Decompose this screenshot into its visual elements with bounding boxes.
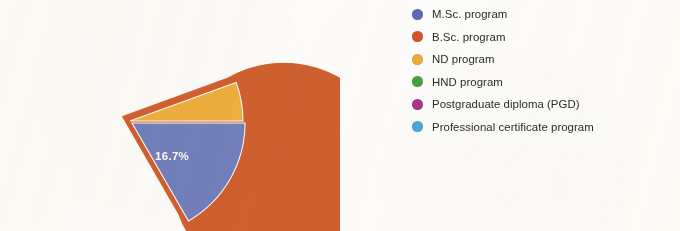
legend-marker-icon (412, 121, 423, 132)
legend-item-postgraduate-diploma[interactable]: Postgraduate diploma (PGD) (409, 93, 677, 116)
legend-marker-icon (412, 9, 423, 20)
legend-item-msc-program[interactable]: M.Sc. program (409, 3, 677, 26)
legend-item-professional-certificate[interactable]: Professional certificate program (409, 116, 677, 139)
pie-chart-figure: 77.8% 16.7% M.Sc. program B.Sc. program … (0, 0, 680, 231)
pie-chart-svg: 77.8% 16.7% (0, 0, 340, 231)
chart-legend: M.Sc. program B.Sc. program ND program H… (409, 3, 677, 138)
legend-item-hnd-program[interactable]: HND program (409, 71, 677, 94)
legend-marker-icon (412, 31, 423, 42)
legend-label: Postgraduate diploma (PGD) (432, 98, 580, 110)
legend-marker-icon (412, 54, 423, 65)
legend-marker-icon (412, 76, 423, 87)
pie-label-msc-percent: 16.7% (155, 150, 189, 162)
legend-label: M.Sc. program (432, 8, 507, 20)
legend-marker-icon (412, 99, 423, 110)
legend-label: Professional certificate program (432, 121, 594, 133)
legend-item-nd-program[interactable]: ND program (409, 48, 677, 71)
pie-chart-plot-area: 77.8% 16.7% (0, 0, 340, 231)
legend-label: ND program (432, 53, 495, 65)
legend-item-bsc-program[interactable]: B.Sc. program (409, 26, 677, 49)
legend-label: B.Sc. program (432, 31, 505, 43)
pie-slice-nd-program[interactable] (130, 82, 243, 121)
pie-label-bsc-percent: 77.8% (37, 92, 71, 104)
legend-label: HND program (432, 76, 503, 88)
